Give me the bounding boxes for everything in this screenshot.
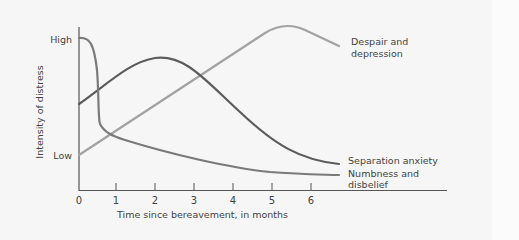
x-tick-label: 0 xyxy=(76,195,82,206)
bereavement-chart: 0 1 2 3 4 5 6 Time since bereavement, in… xyxy=(0,0,519,240)
y-axis-title: Intensity of distress xyxy=(34,65,45,158)
x-tick-label: 2 xyxy=(152,195,158,206)
numbness-label-line2: disbelief xyxy=(348,179,389,190)
despair-label-line2: depression xyxy=(351,48,403,59)
y-low-label: Low xyxy=(53,150,72,161)
x-tick-label: 3 xyxy=(191,195,197,206)
x-tick-label: 5 xyxy=(269,195,275,206)
x-ticks xyxy=(116,183,311,190)
x-tick-label: 1 xyxy=(113,195,119,206)
x-tick-label: 6 xyxy=(308,195,314,206)
series-despair-depression xyxy=(79,26,339,155)
x-axis-title: Time since bereavement, in months xyxy=(116,209,288,220)
series-separation-anxiety xyxy=(79,58,339,164)
numbness-label-line1: Numbness and xyxy=(348,168,419,179)
y-high-label: High xyxy=(50,34,72,45)
separation-label: Separation anxiety xyxy=(348,155,438,166)
despair-label-line1: Despair and xyxy=(351,36,408,47)
x-tick-label: 4 xyxy=(230,195,236,206)
